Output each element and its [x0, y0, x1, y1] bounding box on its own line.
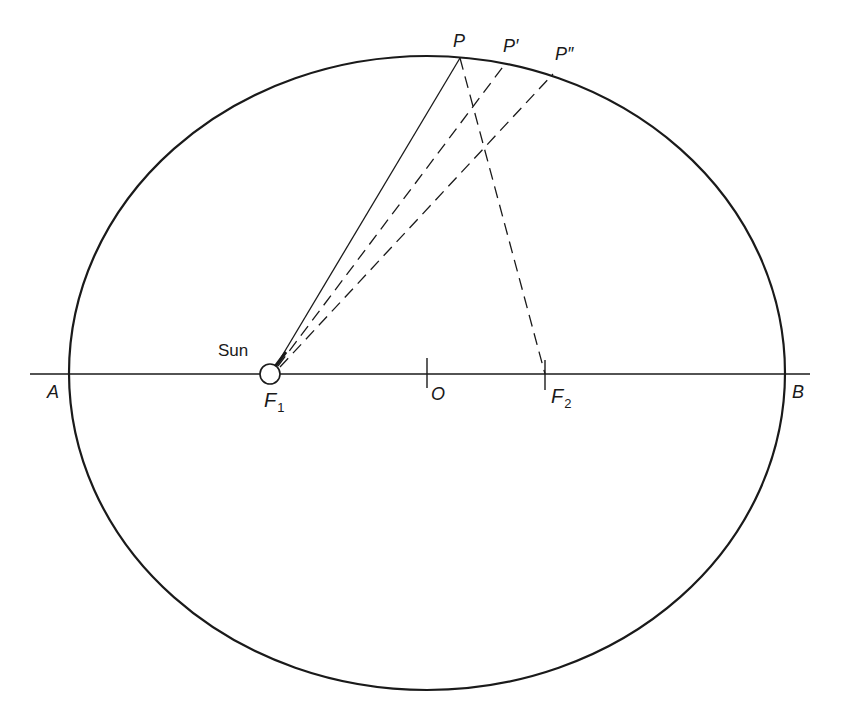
sun-icon: [260, 364, 280, 384]
line-P-to-F2: [460, 58, 545, 374]
label-sun: Sun: [218, 341, 248, 360]
label-F2: F2: [551, 385, 571, 411]
label-P-double-prime: P″: [555, 44, 574, 64]
label-A: A: [46, 382, 59, 402]
label-P: P: [453, 31, 465, 51]
label-O: O: [431, 384, 445, 404]
line-F1-to-P-double-prime: [280, 74, 553, 367]
orbit-diagram: Sun A B O F1 F2 P P′ P″: [0, 0, 846, 721]
line-F1-to-P-prime: [278, 64, 505, 366]
label-F1: F1: [264, 389, 284, 415]
line-F1-to-P: [276, 58, 460, 366]
label-B: B: [792, 382, 804, 402]
label-P-prime: P′: [503, 36, 519, 56]
